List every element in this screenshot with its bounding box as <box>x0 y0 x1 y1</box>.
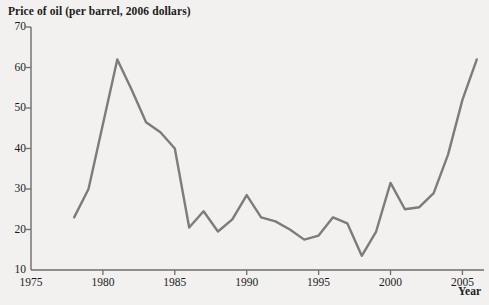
y-tick-label: 20 <box>0 223 26 235</box>
x-tick-label: 2000 <box>369 276 413 288</box>
chart-plot-area <box>0 0 489 305</box>
y-tick-label: 70 <box>0 20 26 32</box>
y-tick-label: 60 <box>0 61 26 73</box>
oil-price-line <box>74 59 477 255</box>
x-tick-label: 1990 <box>225 276 269 288</box>
x-axis-title: Year <box>458 285 481 297</box>
x-tick-label: 1995 <box>297 276 341 288</box>
y-tick-label: 10 <box>0 263 26 275</box>
y-tick-label: 30 <box>0 182 26 194</box>
x-tick-label: 1985 <box>153 276 197 288</box>
x-tick-label: 1975 <box>9 276 53 288</box>
x-tick-label: 1980 <box>81 276 125 288</box>
chart-axes <box>31 27 484 270</box>
chart-figure: Price of oil (per barrel, 2006 dollars) … <box>0 0 489 305</box>
chart-tick-marks <box>26 27 462 275</box>
y-tick-label: 50 <box>0 101 26 113</box>
y-tick-label: 40 <box>0 142 26 154</box>
